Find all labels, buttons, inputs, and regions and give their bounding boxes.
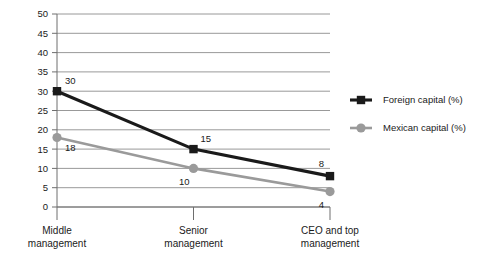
x-axis-category-label: management [28, 238, 87, 249]
y-axis-tick-label: 35 [37, 66, 48, 77]
data-point-marker [53, 87, 61, 95]
data-point-marker [189, 164, 198, 173]
x-axis-category-label: CEO and top [301, 225, 359, 236]
x-axis-category-labels: MiddlemanagementSeniormanagementCEO and … [28, 225, 360, 249]
y-axis-tick-label: 20 [37, 124, 48, 135]
y-axis-tick-label: 40 [37, 47, 48, 58]
data-point-value-label: 18 [65, 142, 76, 153]
legend-label: Mexican capital (%) [383, 122, 466, 133]
data-point-labels: 3015818104 [65, 75, 324, 209]
data-point-value-label: 10 [179, 176, 190, 187]
legend-marker [356, 123, 365, 132]
x-axis-category-label: management [301, 238, 360, 249]
x-axis-ticks [57, 207, 330, 220]
legend-label: Foreign capital (%) [383, 94, 463, 105]
y-axis-tick-label: 5 [43, 182, 48, 193]
x-axis-category-label: management [164, 238, 223, 249]
gridlines [57, 14, 330, 207]
data-point-value-label: 4 [319, 199, 324, 210]
chart-canvas: 05101520253035404550 MiddlemanagementSen… [0, 0, 479, 259]
series-line [57, 91, 330, 176]
data-point-value-label: 8 [319, 158, 324, 169]
y-axis-tick-label: 25 [37, 105, 48, 116]
y-axis-tick-labels: 05101520253035404550 [37, 8, 48, 212]
y-axis-tick-label: 0 [43, 201, 48, 212]
y-axis-tick-label: 10 [37, 163, 48, 174]
series-markers [52, 87, 334, 196]
x-axis-category-label: Middle [42, 225, 72, 236]
data-point-marker [325, 187, 334, 196]
legend-marker [357, 96, 365, 104]
data-point-marker [326, 172, 334, 180]
data-point-marker [189, 145, 197, 153]
y-axis-ticks [52, 14, 57, 207]
series-lines [57, 91, 330, 191]
chart-legend: Foreign capital (%)Mexican capital (%) [350, 94, 466, 133]
x-axis-category-label: Senior [179, 225, 209, 236]
data-point-value-label: 15 [201, 133, 212, 144]
y-axis-tick-label: 50 [37, 8, 48, 19]
data-point-value-label: 30 [65, 75, 76, 86]
y-axis-tick-label: 30 [37, 86, 48, 97]
y-axis-tick-label: 45 [37, 28, 48, 39]
y-axis-tick-label: 15 [37, 144, 48, 155]
line-chart: 05101520253035404550 MiddlemanagementSen… [0, 0, 479, 259]
data-point-marker [52, 133, 61, 142]
